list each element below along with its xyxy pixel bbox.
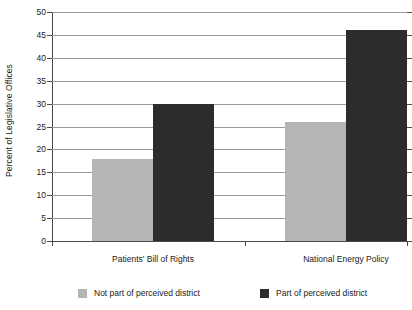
y-tick-mark xyxy=(47,149,52,150)
y-tick-label: 25 xyxy=(6,123,46,132)
x-tick-mark xyxy=(245,241,246,246)
y-tick-label: 50 xyxy=(6,8,46,17)
y-tick-mark xyxy=(47,172,52,173)
y-tick-mark xyxy=(47,218,52,219)
y-tick-mark-right xyxy=(407,81,412,82)
legend-swatch xyxy=(78,289,87,298)
y-tick-label: 40 xyxy=(6,54,46,63)
y-tick-mark-right xyxy=(407,58,412,59)
y-tick-mark xyxy=(47,104,52,105)
legend-label: Not part of perceived district xyxy=(94,289,200,298)
x-axis-line xyxy=(52,241,407,242)
y-tick-mark-right xyxy=(407,218,412,219)
y-tick-mark xyxy=(47,58,52,59)
y-tick-label: 15 xyxy=(6,168,46,177)
y-tick-label: 10 xyxy=(6,191,46,200)
plot-area: 50454035302520151050 xyxy=(52,12,407,241)
y-tick-mark xyxy=(47,81,52,82)
bar xyxy=(92,159,153,241)
y-tick-mark-right xyxy=(407,149,412,150)
y-tick-mark-right xyxy=(407,35,412,36)
bar-chart: Percent of Legislative Offices 504540353… xyxy=(0,0,412,310)
y-tick-label: 45 xyxy=(6,31,46,40)
legend-item: Not part of perceived district xyxy=(78,289,200,298)
y-tick-label: 35 xyxy=(6,77,46,86)
y-tick-label: 30 xyxy=(6,100,46,109)
bar xyxy=(153,104,214,241)
legend-swatch xyxy=(260,289,269,298)
y-tick-mark xyxy=(47,35,52,36)
y-tick-mark-right xyxy=(407,195,412,196)
y-tick-mark xyxy=(47,12,52,13)
bar xyxy=(285,122,346,241)
y-tick-mark-right xyxy=(407,127,412,128)
x-tick-mark xyxy=(52,241,53,246)
legend: Not part of perceived districtPart of pe… xyxy=(0,289,412,303)
bar xyxy=(346,30,407,241)
y-tick-label: 20 xyxy=(6,145,46,154)
y-tick-mark-right xyxy=(407,172,412,173)
gridline xyxy=(52,12,407,13)
x-axis-category-label: Patients' Bill of Rights xyxy=(73,254,233,264)
x-axis-category-label: National Energy Policy xyxy=(266,254,412,264)
y-tick-mark-right xyxy=(407,12,412,13)
legend-item: Part of perceived district xyxy=(260,289,367,298)
legend-label: Part of perceived district xyxy=(276,289,367,298)
y-tick-label: 5 xyxy=(6,214,46,223)
y-tick-mark xyxy=(47,195,52,196)
y-tick-label: 0 xyxy=(6,237,46,246)
y-tick-mark xyxy=(47,127,52,128)
y-tick-mark-right xyxy=(407,104,412,105)
x-tick-mark xyxy=(407,241,408,246)
